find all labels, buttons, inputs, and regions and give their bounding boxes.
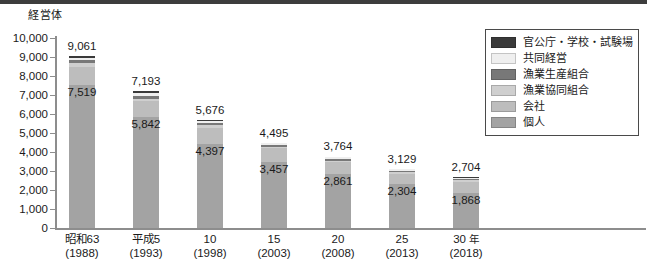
legend-color-swatch <box>491 101 516 112</box>
bar-segment <box>389 174 415 185</box>
y-axis-tick-labels: 10,0009,0008,0007,0006,0005,0004,0003,00… <box>0 0 48 264</box>
y-tick-mark <box>50 133 56 134</box>
legend-color-swatch <box>491 53 516 64</box>
x-tick-label: 15(2003) <box>257 232 290 260</box>
top-rule <box>0 0 647 4</box>
y-tick-mark <box>50 38 56 39</box>
legend-item[interactable]: 官公庁・学校・試験場 <box>491 34 633 50</box>
legend-item[interactable]: 個人 <box>491 114 633 130</box>
y-tick-label: 2,000 <box>19 184 48 196</box>
y-tick-mark <box>50 171 56 172</box>
y-tick-label: 9,000 <box>19 51 48 63</box>
y-tick-label: 0 <box>42 222 48 234</box>
legend-item-label: 漁業生産組合 <box>523 69 589 80</box>
y-tick-label: 7,000 <box>19 89 48 101</box>
y-tick-mark <box>50 57 56 58</box>
x-tick-era: 昭和63 <box>65 233 100 245</box>
legend-color-swatch <box>491 37 516 48</box>
y-tick-mark <box>50 76 56 77</box>
bar-column[interactable] <box>197 120 223 228</box>
legend-item-label: 共同経営 <box>523 53 567 64</box>
bar-total-label: 5,676 <box>196 104 225 116</box>
legend-item-label: 漁業協同組合 <box>523 85 589 96</box>
y-tick-label: 3,000 <box>19 165 48 177</box>
bar-segment-value-label: 5,842 <box>132 118 161 130</box>
y-tick-mark <box>50 190 56 191</box>
y-tick-mark <box>50 152 56 153</box>
legend-item[interactable]: 漁業協同組合 <box>491 82 633 98</box>
x-tick-label: 昭和63(1988) <box>65 232 100 260</box>
x-tick-year: (2003) <box>257 246 290 260</box>
bar-segment <box>133 117 159 228</box>
bar-total-label: 4,495 <box>260 127 289 139</box>
legend-color-swatch <box>491 69 516 80</box>
legend: 官公庁・学校・試験場共同経営漁業生産組合漁業協同組合会社個人 <box>485 29 639 136</box>
x-tick-year: (2013) <box>385 246 418 260</box>
x-tick-era: 15 <box>268 233 281 245</box>
bar-total-label: 2,704 <box>452 161 481 173</box>
bar-segment <box>69 85 95 228</box>
legend-item-label: 官公庁・学校・試験場 <box>523 37 633 48</box>
bar-column[interactable] <box>69 56 95 228</box>
bar-segment <box>325 162 351 173</box>
bar-total-label: 9,061 <box>68 40 97 52</box>
legend-color-swatch <box>491 85 516 96</box>
x-tick-label: 平成5(1993) <box>129 232 162 260</box>
bar-segment <box>133 101 159 117</box>
y-tick-mark <box>50 228 56 229</box>
y-tick-mark <box>50 114 56 115</box>
y-tick-label: 1,000 <box>19 203 48 215</box>
bar-segment <box>453 182 479 193</box>
x-tick-year: (2008) <box>321 246 354 260</box>
x-tick-label: 25(2013) <box>385 232 418 260</box>
x-tick-year: (1993) <box>129 246 162 260</box>
y-tick-label: 4,000 <box>19 146 48 158</box>
x-tick-label: 30 年(2018) <box>449 232 482 260</box>
legend-item-label: 会社 <box>523 101 545 112</box>
x-axis-line <box>55 228 646 230</box>
bar-column[interactable] <box>133 91 159 228</box>
y-tick-label: 6,000 <box>19 108 48 120</box>
bar-total-label: 3,764 <box>324 140 353 152</box>
bar-total-label: 7,193 <box>132 75 161 87</box>
x-tick-era: 20 <box>332 233 345 245</box>
x-tick-label: 20(2008) <box>321 232 354 260</box>
bar-segment-value-label: 4,397 <box>196 145 225 157</box>
bar-segment <box>261 148 287 162</box>
x-axis-unit: 年 <box>466 233 479 245</box>
bar-segment <box>69 67 95 85</box>
x-tick-year: (2018) <box>449 246 482 260</box>
y-tick-label: 8,000 <box>19 70 48 82</box>
bar-column[interactable] <box>389 169 415 228</box>
bar-segment-value-label: 1,868 <box>452 194 481 206</box>
bar-column[interactable] <box>325 157 351 228</box>
legend-item-label: 個人 <box>523 117 545 128</box>
x-tick-era: 10 <box>204 233 217 245</box>
x-tick-year: (1998) <box>193 246 226 260</box>
bar-total-label: 3,129 <box>388 153 417 165</box>
x-tick-year: (1988) <box>65 246 100 260</box>
x-tick-era: 25 <box>396 233 409 245</box>
bar-segment-value-label: 2,304 <box>388 185 417 197</box>
x-tick-label: 10(1998) <box>193 232 226 260</box>
y-tick-mark <box>50 209 56 210</box>
x-tick-era: 30 <box>453 233 466 245</box>
legend-color-swatch <box>491 117 516 128</box>
y-tick-mark <box>50 95 56 96</box>
bar-segment-value-label: 3,457 <box>260 163 289 175</box>
legend-item[interactable]: 会社 <box>491 98 633 114</box>
legend-item[interactable]: 共同経営 <box>491 50 633 66</box>
bar-column[interactable] <box>261 143 287 228</box>
y-tick-label: 10,000 <box>13 32 48 44</box>
legend-item[interactable]: 漁業生産組合 <box>491 66 633 82</box>
bar-segment <box>197 128 223 145</box>
x-tick-era: 平成5 <box>132 233 160 245</box>
chart-figure: 経営体 10,0009,0008,0007,0006,0005,0004,000… <box>0 0 647 264</box>
y-tick-label: 5,000 <box>19 127 48 139</box>
bar-segment-value-label: 7,519 <box>68 86 97 98</box>
bar-segment-value-label: 2,861 <box>324 175 353 187</box>
